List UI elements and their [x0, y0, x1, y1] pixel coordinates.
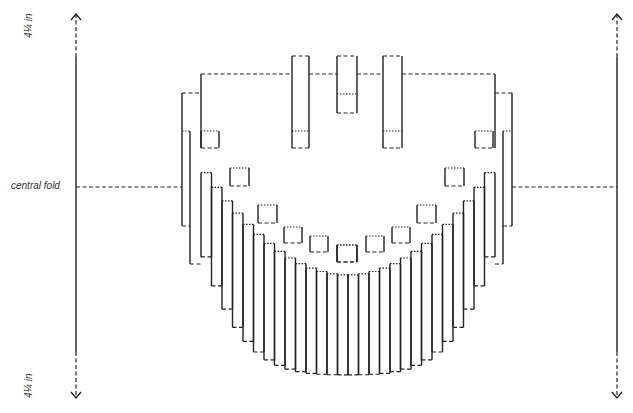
height-top-label: 4¼ in [23, 14, 34, 38]
height-bottom-label: 4¼ in [23, 374, 34, 398]
popup-card-template-diagram [0, 0, 633, 413]
measurement-rules [71, 14, 622, 398]
central-fold-label: central fold [11, 180, 60, 191]
arc-strips [201, 173, 495, 375]
tower-tabs [292, 56, 402, 148]
staircase-steps [201, 131, 493, 262]
outer-frame-cuts [182, 74, 512, 264]
